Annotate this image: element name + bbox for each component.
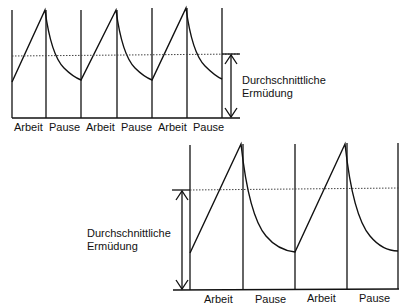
bottom-average-label-1: Durchschnittliche (87, 227, 171, 239)
top-phase-label: Pause (49, 121, 80, 133)
fatigue-diagrams: Durchschnittliche Ermüdung Arbeit Pause … (0, 0, 406, 307)
diagram-top: Durchschnittliche Ermüdung Arbeit Pause … (12, 8, 326, 133)
top-average-label-1: Durchschnittliche (242, 74, 326, 86)
top-phase-label: Arbeit (158, 121, 187, 133)
bottom-phase-label: Pause (255, 293, 286, 305)
bottom-average-label-2: Ermüdung (87, 240, 138, 252)
bottom-phase-label: Arbeit (204, 293, 233, 305)
bottom-average-arrow (176, 191, 188, 289)
bottom-phase-label: Pause (359, 292, 390, 304)
diagram-bottom: Durchschnittliche Ermüdung Arbeit Pause … (87, 143, 399, 305)
top-phase-label: Pause (193, 121, 224, 133)
bottom-baseline (173, 289, 399, 290)
top-phase-label: Arbeit (86, 121, 115, 133)
bottom-phase-label: Arbeit (307, 292, 336, 304)
top-phase-label: Arbeit (14, 121, 43, 133)
top-average-arrow (225, 55, 237, 117)
top-phase-label: Pause (121, 121, 152, 133)
bottom-fatigue-curve (190, 144, 398, 253)
top-average-label-2: Ermüdung (242, 87, 293, 99)
